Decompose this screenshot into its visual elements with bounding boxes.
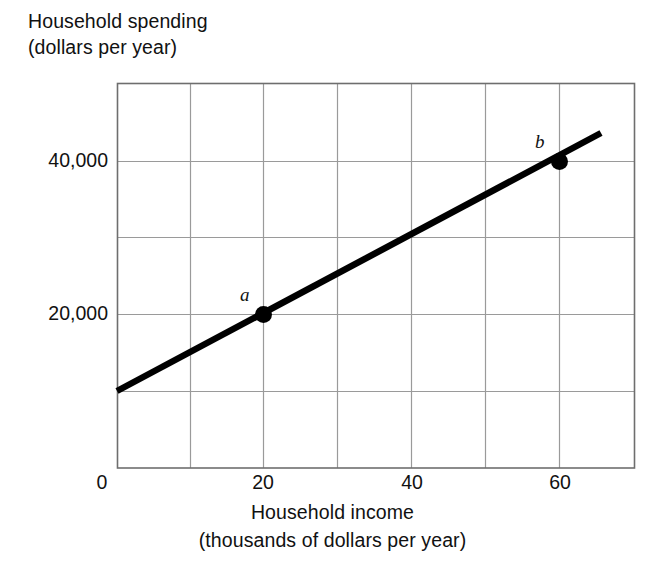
chart-figure: Household spending (dollars per year) 40 <box>0 0 665 578</box>
point-label-a: a <box>240 285 250 304</box>
data-point-a <box>255 306 272 323</box>
x-axis-title-line1: Household income <box>251 501 414 523</box>
x-tick-40: 40 <box>382 473 442 493</box>
plot-frame <box>118 84 635 469</box>
x-axis-title-line2: (thousands of dollars per year) <box>0 526 665 554</box>
x-axis-title: Household income (thousands of dollars p… <box>0 498 665 554</box>
vertical-gridlines <box>191 83 560 468</box>
point-label-b: b <box>535 132 545 151</box>
spending-line <box>117 133 601 391</box>
x-tick-20: 20 <box>233 473 293 493</box>
data-point-b <box>551 153 568 170</box>
horizontal-gridlines <box>117 162 635 392</box>
x-tick-60: 60 <box>530 473 590 493</box>
x-tick-0: 0 <box>72 473 132 493</box>
